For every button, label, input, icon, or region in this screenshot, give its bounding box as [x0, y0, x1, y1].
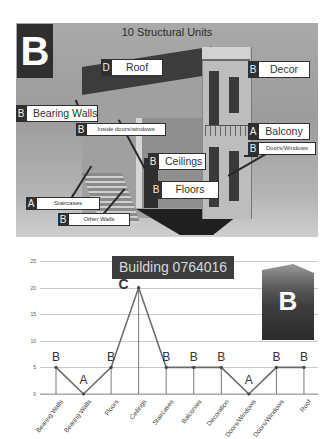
window-shape	[209, 71, 219, 126]
callout-decor: B Decor	[248, 61, 310, 78]
balcony-railing-shape	[205, 125, 249, 136]
point-grade-label: B	[297, 350, 311, 364]
callout-floors: B Floors	[151, 181, 219, 199]
grade-tag: A	[26, 197, 36, 210]
grade-tag: A	[248, 123, 258, 140]
point-grade-label: B	[187, 350, 201, 364]
callout-ceilings: B Ceilings	[148, 153, 206, 170]
callout-label: Doors/Windows	[258, 142, 316, 155]
grade-tag: B	[148, 153, 158, 170]
data-point	[137, 286, 140, 289]
data-point	[110, 366, 113, 369]
callout-label: Staircases	[36, 197, 100, 210]
callout-roof: D Roof	[101, 59, 163, 76]
callout-bearing-walls: B Bearing Walls	[16, 105, 98, 122]
grade-tag: B	[248, 142, 258, 155]
data-point	[247, 392, 250, 395]
callout-label: Other Walls	[68, 213, 130, 226]
callout-label: Decor	[258, 61, 310, 78]
point-grade-label: A	[242, 373, 256, 387]
callout-label: Balcony	[258, 123, 310, 140]
callout-inside-doors-windows: B Inside doors/windows	[76, 123, 166, 136]
grade-tag: B	[16, 105, 26, 122]
panel-title: 10 Structural Units	[16, 26, 318, 38]
leader-line	[244, 155, 258, 157]
chart-title: Building 0764016	[112, 256, 234, 279]
callout-label: Inside doors/windows	[86, 123, 166, 136]
callout-label: Bearing Walls	[26, 105, 98, 122]
callout-balcony: A Balcony	[248, 123, 310, 140]
point-grade-label: A	[77, 373, 91, 387]
point-grade-label: B	[159, 350, 173, 364]
data-point	[165, 366, 168, 369]
callout-label: Floors	[161, 181, 219, 199]
data-point	[82, 392, 85, 395]
callout-other-walls: B Other Walls	[58, 213, 130, 226]
data-point	[54, 366, 57, 369]
callout-staircases: A Staircases	[26, 197, 100, 210]
data-point	[192, 366, 195, 369]
grade-tag: B	[151, 181, 161, 199]
building-photo: B	[262, 264, 314, 340]
callout-label: Ceilings	[158, 153, 206, 170]
photo-grade-badge: B	[262, 286, 314, 317]
grade-tag: B	[58, 213, 68, 226]
window-shape	[229, 151, 239, 201]
structural-units-illustration: 10 Structural Units B D Roof B Decor B B…	[16, 23, 318, 237]
grade-line-chart: 2520151050 BABCBBBABB Bearing WallsBeari…	[0, 250, 336, 439]
point-grade-label: B	[49, 350, 63, 364]
data-point	[220, 366, 223, 369]
overall-grade-badge: B	[17, 24, 53, 78]
point-grade-label: B	[214, 350, 228, 364]
data-point	[275, 366, 278, 369]
building-cornice-shape	[202, 47, 250, 61]
callout-label: Roof	[111, 59, 163, 76]
point-grade-label: B	[104, 350, 118, 364]
grade-tag: B	[76, 123, 86, 136]
grade-tag: B	[248, 61, 258, 78]
callout-doors-windows: B Doors/Windows	[248, 142, 316, 155]
point-grade-label: B	[269, 350, 283, 364]
data-point	[302, 366, 305, 369]
grade-tag: D	[101, 59, 111, 76]
window-shape	[229, 77, 239, 113]
